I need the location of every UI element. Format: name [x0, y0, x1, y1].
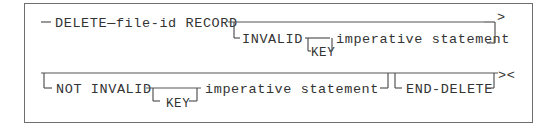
continuation-marker: > [497, 10, 506, 25]
delete-file-id-record: DELETE—file-id RECORD [55, 16, 238, 31]
key-keyword-2: KEY [166, 97, 190, 111]
not-invalid-keyword: NOT INVALID [56, 82, 152, 97]
imperative-statement-2: imperative statement [205, 82, 379, 97]
syntax-diagram: DELETE—file-id RECORD INVALID KEY impera… [0, 0, 555, 130]
end-marker: >< [498, 68, 515, 83]
end-delete-keyword: END-DELETE [406, 82, 493, 97]
imperative-statement: imperative statement [336, 32, 510, 47]
invalid-keyword: INVALID [242, 32, 303, 47]
